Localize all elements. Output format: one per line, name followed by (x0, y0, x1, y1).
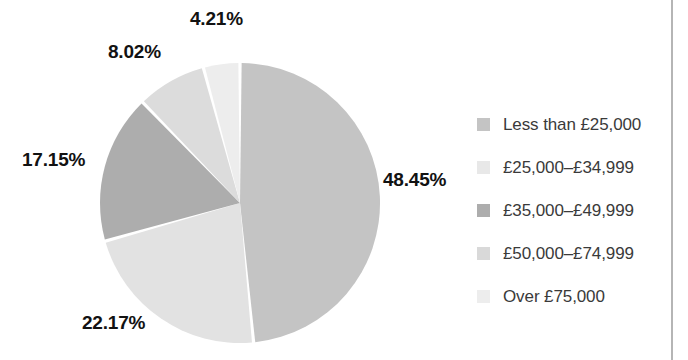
legend-swatch-icon (477, 161, 490, 174)
legend-item-over-75000[interactable]: Over £75,000 (477, 275, 667, 318)
pie-plot-area: 48.45%22.17%17.15%8.02%4.21% (0, 0, 470, 360)
legend-item-label: £25,000–£34,999 (503, 158, 634, 178)
legend-item-label: Over £75,000 (503, 287, 605, 307)
slice-value-label-35000-49999: 17.15% (22, 149, 85, 171)
slice-value-label-50000-74999: 8.02% (108, 41, 161, 63)
slice-value-label-less-than-25000: 48.45% (383, 169, 446, 191)
legend-item-25000-34999[interactable]: £25,000–£34,999 (477, 146, 667, 189)
legend-swatch-icon (477, 204, 490, 217)
legend-swatch-icon (477, 247, 490, 260)
slice-value-label-25000-34999: 22.17% (82, 312, 145, 334)
legend-item-less-than-25000[interactable]: Less than £25,000 (477, 103, 667, 146)
slice-value-label-over-75000: 4.21% (190, 8, 243, 30)
pie-chart-figure: 48.45%22.17%17.15%8.02%4.21% Less than £… (0, 0, 688, 360)
legend-item-label: £35,000–£49,999 (503, 201, 634, 221)
chart-legend: Less than £25,000£25,000–£34,999£35,000–… (477, 103, 667, 318)
right-border-rule (671, 0, 673, 360)
pie-slice-less-than-25000[interactable] (240, 63, 380, 342)
legend-item-50000-74999[interactable]: £50,000–£74,999 (477, 232, 667, 275)
legend-item-label: £50,000–£74,999 (503, 244, 634, 264)
legend-swatch-icon (477, 118, 490, 131)
legend-item-label: Less than £25,000 (503, 115, 641, 135)
legend-item-35000-49999[interactable]: £35,000–£49,999 (477, 189, 667, 232)
legend-swatch-icon (477, 290, 490, 303)
